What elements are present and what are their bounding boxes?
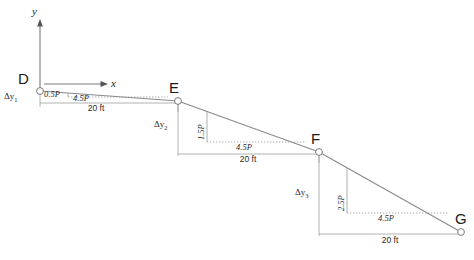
node-f-marker[interactable] — [316, 149, 323, 156]
y-axis-label: y — [31, 5, 37, 17]
node-d-marker[interactable] — [37, 88, 44, 95]
node-f[interactable]: F — [311, 130, 322, 155]
node-d-label: D — [18, 70, 29, 87]
segment-2-dimensions: Δy2 1.5P 4.5P 20 ft — [154, 104, 319, 164]
diagram-canvas: y x Δy1 0.5P 4.5P 20 ft — [0, 0, 474, 260]
node-g[interactable]: G — [455, 210, 467, 235]
delta-y2-label: Δy2 — [154, 119, 168, 131]
node-g-marker[interactable] — [458, 229, 465, 236]
member-line-d-e — [40, 91, 178, 101]
span-2-label: 20 ft — [240, 154, 257, 164]
delta-y1-label: Δy1 — [4, 91, 18, 103]
segment-1-dimensions: Δy1 0.5P 4.5P 20 ft — [4, 89, 178, 114]
slope-3-run-label: 4.5P — [378, 213, 394, 223]
x-axis-arrowhead-icon — [101, 81, 109, 87]
beam-deflection-svg: y x Δy1 0.5P 4.5P 20 ft — [0, 0, 474, 260]
segment-3-dimensions: Δy3 2.5P 4.5P 20 ft — [295, 155, 461, 245]
node-e-marker[interactable] — [175, 98, 182, 105]
y-axis: y — [31, 5, 43, 88]
span-3-label: 20 ft — [382, 235, 399, 245]
x-axis-label: x — [110, 77, 116, 89]
member-d-e — [40, 91, 178, 101]
slope-2-run-label: 4.5P — [236, 142, 252, 152]
x-axis: x — [44, 77, 116, 89]
span-1-label: 20 ft — [88, 103, 105, 113]
node-f-label: F — [311, 130, 320, 147]
slope-1-run-label: 4.5P — [73, 93, 89, 103]
delta-y3-label: Δy3 — [295, 187, 309, 199]
slope-3-rise-label: 2.5P — [336, 195, 346, 211]
node-g-label: G — [455, 210, 467, 227]
slope-1-rise-label: 0.5P — [44, 89, 60, 99]
slope-2-rise-label: 1.5P — [196, 124, 206, 140]
y-axis-arrowhead-icon — [37, 19, 43, 27]
node-e-label: E — [169, 79, 179, 96]
